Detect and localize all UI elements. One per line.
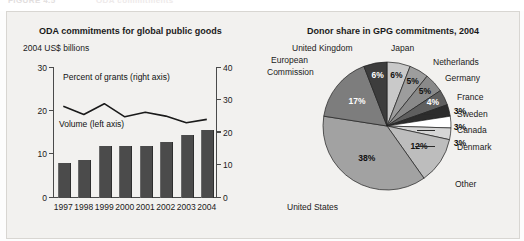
figure-panel: ODA commitments for global public goods … — [6, 11, 520, 239]
x-label-2001: 2001 — [135, 202, 156, 212]
pie-label-netherlands: Netherlands — [433, 57, 479, 67]
pie-label-other: Other — [455, 179, 476, 189]
leader-line-sweden — [419, 114, 435, 115]
grants-line — [53, 67, 217, 198]
y2-tick-10 — [217, 164, 221, 165]
bar-chart-title: ODA commitments for global public goods — [39, 26, 222, 36]
pie-label-denmark: Denmark — [457, 142, 491, 152]
x-label-1997: 1997 — [53, 202, 74, 212]
pie-value-france: 4% — [422, 97, 444, 107]
pie-label-european-commission: Commission — [267, 67, 314, 77]
y2-tick-40 — [217, 67, 221, 68]
x-label-2003: 2003 — [176, 202, 197, 212]
pie-plot-area: 6%5%5%4%3%3%3%12%38%17%6% — [321, 60, 453, 192]
volume-annotation: Volume (left axis) — [59, 119, 124, 129]
y-tick-label-0: 0 — [42, 193, 47, 203]
leader-line-denmark — [415, 146, 435, 147]
y2-tick-label-30: 30 — [223, 95, 232, 105]
y-tick-label-30: 30 — [38, 63, 47, 73]
bar-line-chart: ODA commitments for global public goods … — [7, 12, 265, 238]
x-label-2004: 2004 — [197, 202, 218, 212]
x-label-1999: 1999 — [94, 202, 115, 212]
pie-label-united-states: United States — [287, 202, 338, 212]
y2-tick-label-20: 20 — [223, 128, 232, 138]
bar-chart-y-unit: 2004 US$ billions — [23, 43, 89, 53]
pie-chart-title: Donor share in GPG commitments, 2004 — [307, 26, 479, 36]
pie-label-european: European — [271, 55, 308, 65]
x-label-1998: 1998 — [74, 202, 95, 212]
pie-value-united-states: 38% — [356, 153, 378, 163]
x-label-2000: 2000 — [115, 202, 136, 212]
x-label-2002: 2002 — [156, 202, 177, 212]
y2-tick-label-10: 10 — [223, 160, 232, 170]
pie-chart: Donor share in GPG commitments, 2004 6%5… — [265, 12, 519, 238]
figure-caption-title: ODA commitments — [96, 0, 174, 5]
pie-label-france: France — [457, 92, 483, 102]
pie-value-germany: 5% — [414, 86, 436, 96]
y2-tick-30 — [217, 99, 221, 100]
pie-label-united-kingdom: United Kingdom — [292, 43, 352, 53]
y2-tick-label-0: 0 — [223, 193, 228, 203]
pie-value-european-commission: 17% — [346, 96, 368, 106]
bar-chart-plot-area: 0 10 20 30 0 10 20 30 40 199719981999200… — [53, 67, 217, 198]
pie-value-netherlands: 5% — [402, 76, 424, 86]
figure-caption-number: FIGURE 4.5 — [8, 0, 56, 5]
pie-label-canada: Canada — [457, 125, 487, 135]
y2-tick-20 — [217, 131, 221, 132]
leader-line-canada — [417, 130, 435, 131]
pie-value-united-kingdom: 6% — [367, 70, 389, 80]
pie-label-germany: Germany — [445, 73, 480, 83]
y2-tick-label-40: 40 — [223, 63, 232, 73]
figure-container: FIGURE 4.5 ODA commitments ODA commitmen… — [0, 0, 524, 241]
y2-tick-0 — [217, 197, 221, 198]
pie-label-japan: Japan — [391, 43, 414, 53]
y-tick-label-20: 20 — [38, 106, 47, 116]
pie-label-sweden: Sweden — [457, 109, 488, 119]
grants-line-annotation: Percent of grants (right axis) — [63, 72, 170, 82]
pie-slices — [321, 60, 453, 192]
y-tick-label-10: 10 — [38, 149, 47, 159]
figure-caption-strip: FIGURE 4.5 ODA commitments — [0, 0, 524, 11]
